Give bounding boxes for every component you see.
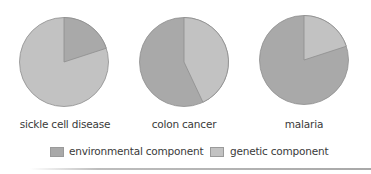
pie-colon-cancer bbox=[138, 16, 230, 108]
pie-label-colon-cancer: colon cancer bbox=[124, 118, 244, 130]
pie-label-malaria: malaria bbox=[244, 118, 364, 130]
pie-label-sickle-cell-disease: sickle cell disease bbox=[5, 118, 125, 130]
pie-malaria bbox=[258, 14, 350, 106]
legend-label-environmental: environmental component bbox=[69, 145, 203, 157]
legend-label-genetic: genetic component bbox=[230, 145, 328, 157]
pie-sickle-cell-disease bbox=[18, 16, 110, 108]
legend-swatch-environmental bbox=[50, 147, 64, 157]
bottom-rule bbox=[30, 168, 371, 170]
legend-swatch-genetic bbox=[210, 147, 224, 157]
